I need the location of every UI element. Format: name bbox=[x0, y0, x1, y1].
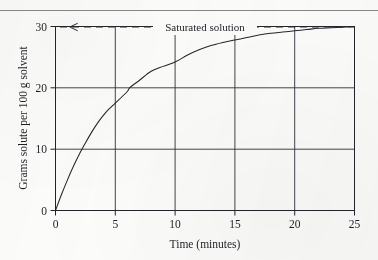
x-tick-label-20: 20 bbox=[289, 218, 301, 230]
dissolution-curve-group bbox=[56, 27, 355, 211]
x-tick-label-10: 10 bbox=[169, 218, 181, 230]
solubility-chart-figure: Saturated solution 30 20 10 0 0 5 10 15 … bbox=[0, 0, 378, 260]
y-axis-title: Grams solute per 100 g solvent bbox=[17, 45, 30, 189]
x-axis-ticks bbox=[56, 211, 355, 216]
x-tick-label-5: 5 bbox=[112, 218, 118, 230]
x-tick-label-15: 15 bbox=[229, 218, 241, 230]
y-tick-label-30: 30 bbox=[36, 21, 48, 33]
x-tick-label-25: 25 bbox=[349, 218, 361, 230]
y-tick-label-0: 0 bbox=[41, 205, 47, 217]
saturated-solution-label: Saturated solution bbox=[165, 21, 245, 33]
y-axis-ticks bbox=[51, 27, 56, 211]
y-tick-label-20: 20 bbox=[36, 82, 48, 94]
scanned-page: Saturated solution 30 20 10 0 0 5 10 15 … bbox=[0, 0, 378, 260]
y-axis-tick-labels: 30 20 10 0 bbox=[36, 21, 48, 217]
x-tick-label-0: 0 bbox=[53, 218, 59, 230]
x-axis-tick-labels: 0 5 10 15 20 25 bbox=[53, 218, 361, 230]
y-tick-label-10: 10 bbox=[36, 143, 48, 155]
dissolution-curve bbox=[56, 27, 355, 211]
x-axis-title: Time (minutes) bbox=[170, 238, 241, 251]
